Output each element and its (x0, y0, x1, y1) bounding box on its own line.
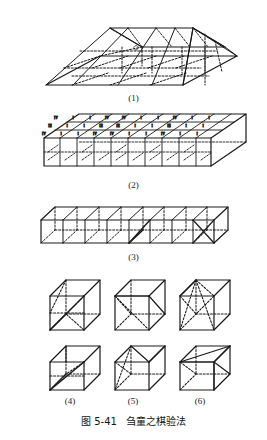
caption-figure-number: 图 5-41 (81, 416, 117, 427)
figure-3-label: (3) (0, 252, 267, 262)
figure-4-label: (4) (40, 396, 100, 406)
figure-2-label: (2) (0, 180, 267, 190)
svg-text:III: III (99, 124, 103, 128)
svg-text:I: I (134, 124, 136, 128)
svg-text:IV: IV (173, 116, 177, 120)
svg-text:IV: IV (105, 116, 109, 120)
cube-5-bottom (115, 346, 165, 390)
cube-4-top (50, 280, 100, 330)
svg-text:I: I (185, 124, 187, 128)
svg-text:I: I (145, 132, 147, 136)
figure-1-frustum (0, 6, 267, 94)
svg-text:IV: IV (110, 132, 114, 136)
svg-text:I: I (128, 132, 130, 136)
cube-6-bottom (180, 346, 230, 390)
figures-456-cubes (0, 268, 267, 396)
svg-text:IV: IV (161, 132, 165, 136)
svg-text:I: I (60, 132, 62, 136)
figure-1-label: (1) (0, 93, 267, 103)
svg-text:I: I (202, 124, 204, 128)
figure-5-label: (5) (103, 396, 163, 406)
svg-text:IV: IV (42, 132, 46, 136)
svg-text:I: I (66, 124, 68, 128)
caption-title: 刍童之棋验法 (126, 416, 186, 427)
svg-text:I: I (179, 132, 181, 136)
cube-6-top (180, 280, 230, 330)
figure-3-cube-row (0, 200, 267, 252)
svg-text:I: I (83, 124, 85, 128)
svg-text:I: I (196, 132, 198, 136)
figure-page: (1) (0, 0, 267, 440)
figure-caption: 图 5-41刍童之棋验法 (0, 413, 267, 428)
svg-text:IV: IV (54, 116, 58, 120)
svg-text:III: III (167, 124, 171, 128)
svg-text:III: III (48, 124, 52, 128)
figure-6-label: (6) (170, 396, 230, 406)
svg-text:IV: IV (122, 116, 126, 120)
figure-2-labeled-slab: IV I I IV IV I I IV I I III I I III III (0, 108, 267, 180)
svg-text:I: I (151, 124, 153, 128)
svg-text:IV: IV (93, 132, 97, 136)
svg-text:I: I (77, 132, 79, 136)
cube-5-top (115, 280, 165, 330)
cube-4-bottom (50, 346, 100, 390)
svg-text:III: III (116, 124, 120, 128)
